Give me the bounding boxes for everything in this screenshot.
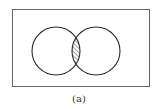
universal-set-frame bbox=[13, 10, 150, 87]
figure-caption: (a) bbox=[0, 93, 158, 105]
